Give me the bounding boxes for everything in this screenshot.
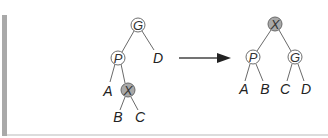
leaf-b-before: B [113,109,122,125]
svg-text:P: P [249,50,258,65]
leaf-a-before: A [102,83,112,99]
before-tree: G P X D A B C [102,18,163,126]
edge-x-g [279,30,291,51]
node-g-after: G [288,50,302,65]
edge-p-a [245,64,250,81]
node-p-after: P [246,50,260,65]
svg-text:G: G [133,18,143,33]
edge-x-p [257,30,271,51]
leaf-c-before: C [135,109,146,125]
leaf-a-after: A [238,81,248,97]
edge-p-b [256,64,263,81]
node-x-before: X [121,83,135,98]
edge-g-d [298,64,304,81]
node-p-before: P [111,51,125,66]
edge-p-x [121,64,125,83]
edge-g-c [287,64,292,81]
edge-g-p [122,31,134,52]
transform-arrow-icon [179,53,231,63]
leaf-b-after: B [260,81,269,97]
svg-text:G: G [290,50,300,65]
node-x-after: X [268,17,282,32]
node-g-before: G [131,18,145,33]
leaf-d-after: D [301,81,311,97]
rotation-diagram: G P X D A B C X P [0,0,328,138]
svg-text:X: X [123,83,134,98]
leaf-d-before: D [153,50,163,66]
svg-text:P: P [114,51,123,66]
after-tree: X P G A B C D [238,17,311,98]
edge-p-a [110,64,115,82]
leaf-c-after: C [280,81,291,97]
svg-text:X: X [270,17,281,32]
edge-g-d [142,31,154,50]
